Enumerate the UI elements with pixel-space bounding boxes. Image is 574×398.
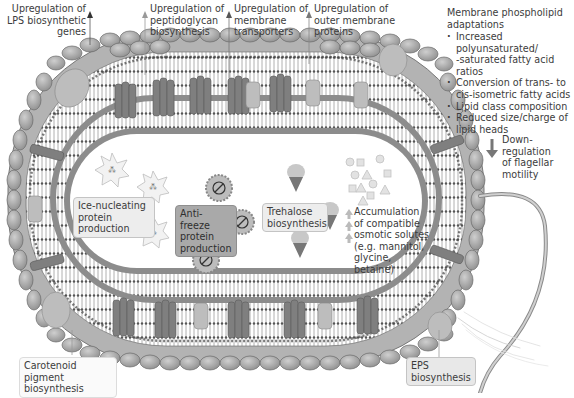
phospholipid-title: Membrane phospholipid adaptations (447, 7, 563, 30)
phospholipid-item: Lipid class composition (447, 101, 574, 113)
box-trehalose: Trehalose biosynthesis (262, 203, 328, 232)
svg-text:⁂: ⁂ (108, 165, 116, 175)
phospholipid-item: Conversion of trans- to cis-isometric fa… (447, 77, 574, 100)
box-carotenoid: Carotenoid pigment biosynthesis (19, 357, 117, 398)
label-peptidoglycan-upregulation: Upregulation of peptidoglycan biosynthes… (150, 3, 224, 38)
label-compatible-solutes: Accumulation of compatible osmotic solut… (354, 206, 429, 276)
label-lps-upregulation: Upregulation of LPS biosynthetic genes (4, 3, 86, 38)
box-anti-freeze: Anti-freeze protein production (175, 205, 237, 257)
solutes-up-arrows (345, 209, 353, 243)
box-eps: EPS biosynthesis (406, 357, 476, 386)
box-ice-nucleating: Ice-nucleating protein production (73, 197, 155, 238)
label-outer-membrane-upregulation: Upregulation of outer membrane proteins (314, 3, 395, 38)
phospholipid-list: Increased polyunsaturated/ -saturated fa… (447, 31, 574, 135)
phospholipid-item: Reduced size/charge of lipid heads (447, 112, 574, 135)
phospholipid-item: Increased polyunsaturated/ -saturated fa… (447, 31, 574, 77)
label-flagellar-downregulation: Down- regulation of flagellar motility (502, 134, 553, 180)
svg-text:⁂: ⁂ (149, 182, 157, 192)
label-transporters-upregulation: Upregulation of membrane transporters (234, 3, 308, 38)
